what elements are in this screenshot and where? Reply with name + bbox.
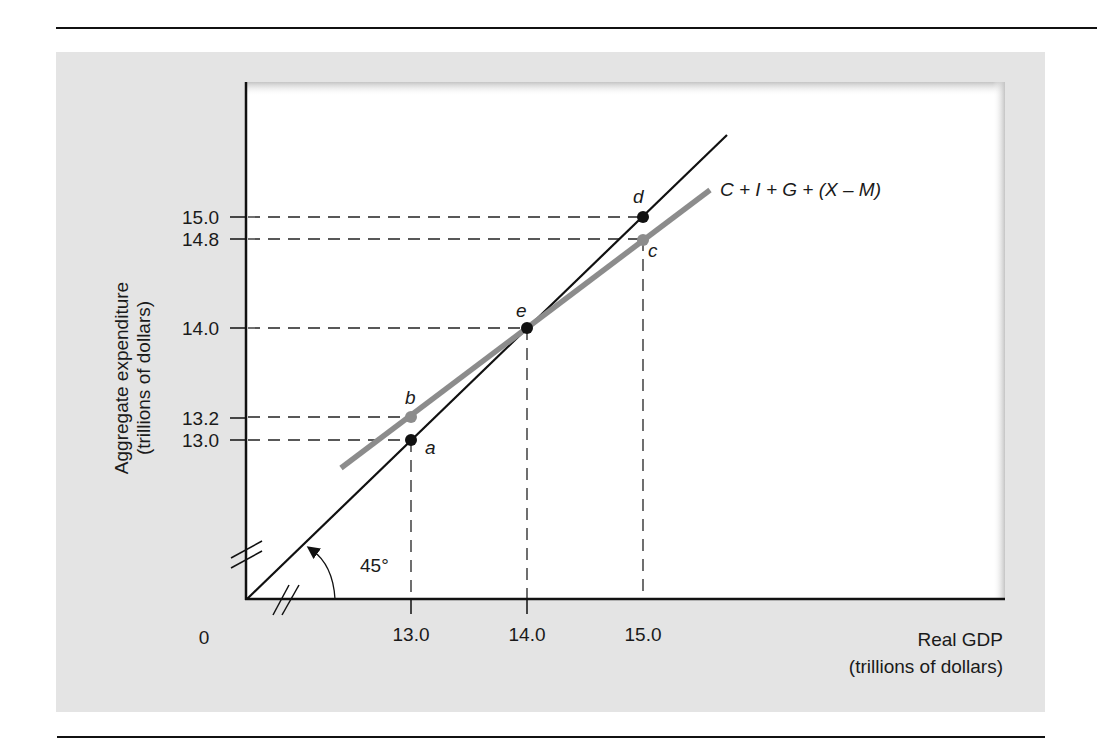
- x-tick-label-14-0: 14.0: [509, 624, 546, 645]
- y-axis-title: Aggregate expenditure (trillions of doll…: [111, 282, 154, 474]
- chart: 45° 15.0 14.8 14.0 13.2 13.0 13.0 14.0 1…: [0, 0, 1097, 749]
- y-tick-label-14-8: 14.8: [182, 229, 219, 250]
- y-tick-label-14-0: 14.0: [182, 318, 219, 339]
- point-b: [405, 411, 417, 423]
- point-label-c: c: [648, 240, 658, 261]
- x-tick-label-13-0: 13.0: [393, 624, 430, 645]
- point-label-e: e: [516, 300, 527, 321]
- point-e: [521, 322, 533, 334]
- origin-label: 0: [199, 627, 210, 648]
- point-a: [405, 434, 417, 446]
- y-tick-label-13-2: 13.2: [182, 408, 219, 429]
- plot-area: [246, 82, 1005, 599]
- y-tick-label-13-0: 13.0: [182, 430, 219, 451]
- y-axis-title-line2: (trillions of dollars): [133, 301, 154, 455]
- y-axis-title-line1: Aggregate expenditure: [111, 282, 132, 474]
- plot-top-shadow: [246, 82, 1005, 96]
- ae-curve-label: C + I + G + (X – M): [720, 179, 881, 200]
- point-label-d: d: [633, 186, 645, 207]
- point-label-a: a: [425, 437, 436, 458]
- angle-label: 45°: [360, 555, 389, 576]
- x-tick-label-15-0: 15.0: [625, 624, 662, 645]
- x-axis-title-line1: Real GDP: [917, 629, 1003, 650]
- point-label-b: b: [405, 387, 416, 408]
- plot-right-shadow: [993, 82, 1005, 599]
- x-axis-title-line2: (trillions of dollars): [849, 656, 1003, 677]
- point-d: [637, 211, 649, 223]
- y-tick-label-15-0: 15.0: [182, 207, 219, 228]
